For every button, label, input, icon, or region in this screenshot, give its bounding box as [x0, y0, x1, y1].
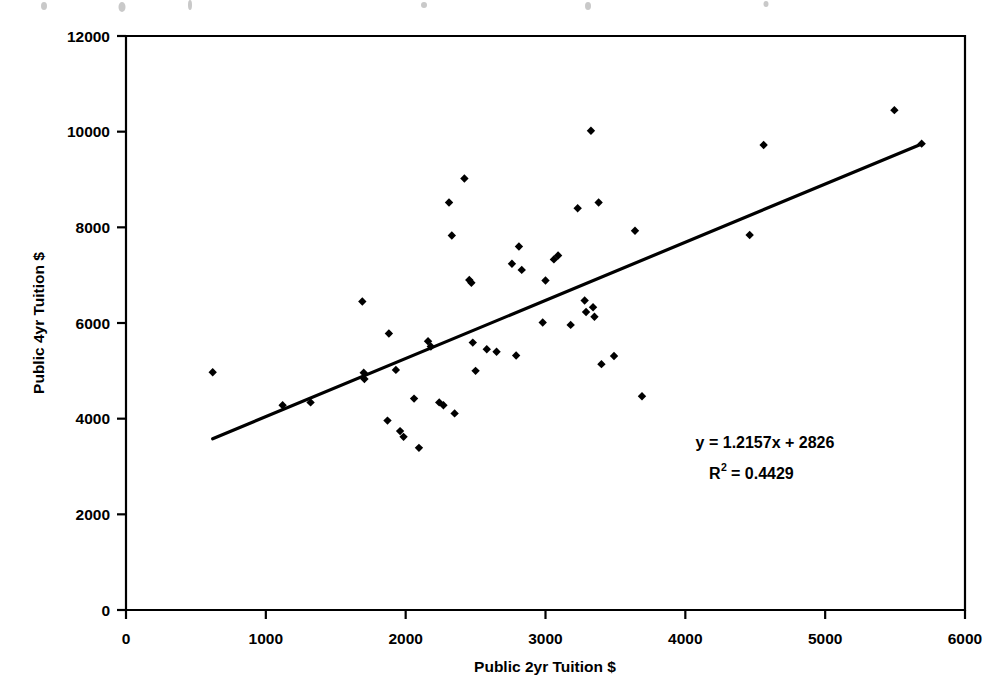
data-point-marker — [460, 174, 468, 182]
data-point-marker — [539, 318, 547, 326]
x-tick-label: 4000 — [668, 630, 702, 647]
x-tick-label: 2000 — [388, 630, 422, 647]
data-point-marker — [515, 242, 523, 250]
data-point-marker — [566, 321, 574, 329]
r-squared-value: = 0.4429 — [731, 465, 794, 482]
data-point-marker — [890, 106, 898, 114]
r-squared-symbol: R — [709, 465, 721, 482]
data-point-marker — [471, 367, 479, 375]
scan-artifacts — [41, 0, 769, 12]
data-point-marker — [450, 409, 458, 417]
data-point-marker — [392, 366, 400, 374]
chart-canvas: 020004000600080001000012000 010002000300… — [0, 0, 1002, 700]
y-tick-label: 12000 — [67, 28, 110, 45]
y-tick-label: 6000 — [76, 315, 110, 332]
data-point-marker — [410, 394, 418, 402]
data-point-marker — [582, 308, 590, 316]
data-point-marker — [573, 204, 581, 212]
regression-equation: y = 1.2157x + 2826 — [696, 434, 835, 451]
trend-line — [213, 144, 922, 439]
data-point-marker — [483, 345, 491, 353]
y-axis-title: Public 4yr Tuition $ — [30, 252, 47, 394]
data-point-marker — [208, 368, 216, 376]
data-point-marker — [590, 313, 598, 321]
y-tick-label: 0 — [101, 602, 110, 619]
data-point-marker — [383, 416, 391, 424]
x-axis-ticks — [126, 610, 965, 619]
data-point-marker — [492, 348, 500, 356]
data-point-marker — [512, 351, 520, 359]
x-tick-label: 6000 — [948, 630, 982, 647]
data-point-marker — [358, 297, 366, 305]
y-tick-label: 2000 — [76, 506, 110, 523]
y-tick-label: 4000 — [76, 410, 110, 427]
x-tick-label: 1000 — [249, 630, 283, 647]
data-point-marker — [518, 266, 526, 274]
data-point-marker — [759, 141, 767, 149]
data-point-marker — [610, 352, 618, 360]
data-point-marker — [589, 303, 597, 311]
x-axis-tick-labels: 0100020003000400050006000 — [122, 630, 983, 647]
data-point-marker — [587, 127, 595, 135]
data-point-marker — [448, 231, 456, 239]
data-point-marker — [385, 329, 393, 337]
data-point-marker — [597, 360, 605, 368]
data-point-marker — [508, 259, 516, 267]
x-axis-title: Public 2yr Tuition $ — [474, 658, 616, 675]
scatter-chart: 020004000600080001000012000 010002000300… — [0, 0, 1002, 700]
x-tick-label: 0 — [122, 630, 131, 647]
data-point-marker — [445, 198, 453, 206]
r-squared-exponent: 2 — [721, 461, 727, 473]
data-point-marker — [580, 296, 588, 304]
data-point-marker — [631, 226, 639, 234]
r-squared-annotation: R 2 = 0.4429 — [709, 461, 794, 482]
y-tick-label: 10000 — [67, 123, 110, 140]
data-point-marker — [745, 231, 753, 239]
data-point-marker — [638, 392, 646, 400]
x-tick-label: 5000 — [808, 630, 842, 647]
data-point-marker — [594, 198, 602, 206]
data-point-layer — [208, 106, 925, 452]
data-point-marker — [415, 444, 423, 452]
y-axis-ticks — [117, 36, 126, 610]
x-tick-label: 3000 — [528, 630, 562, 647]
data-point-marker — [469, 338, 477, 346]
y-tick-label: 8000 — [76, 219, 110, 236]
y-axis-tick-labels: 020004000600080001000012000 — [67, 28, 110, 619]
data-point-marker — [541, 276, 549, 284]
